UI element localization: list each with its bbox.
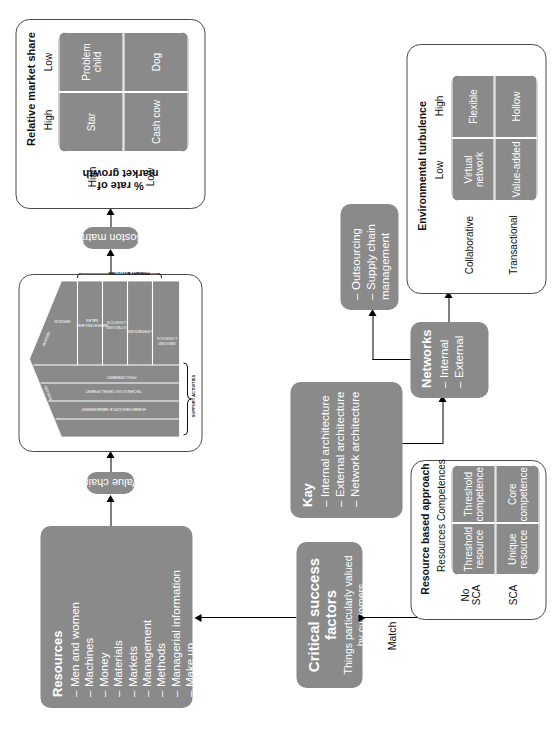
- rba-cell-core-competence[interactable]: Core competence: [495, 465, 539, 523]
- turbulence-x-tick: High: [433, 75, 444, 137]
- outsourcing-box[interactable]: –Outsourcing –Supply chain management: [340, 204, 398, 310]
- turbulence-title: Environmental turbulence: [415, 51, 427, 281]
- connector-csf-resources: [200, 617, 296, 618]
- environmental-turbulence-box[interactable]: Environmental turbulence Low High Collab…: [406, 44, 546, 294]
- primary-activity-label: MARKETING AND SALES: [76, 317, 108, 326]
- resources-item: –Materials: [110, 537, 124, 697]
- turbulence-grid[interactable]: Virtual network Flexible Value-added Hol…: [451, 75, 537, 201]
- arrowhead: [106, 208, 114, 215]
- resources-item: –Markets: [125, 537, 139, 697]
- turbulence-cell-hollow[interactable]: Hollow: [494, 75, 537, 138]
- connector-kay-networks: [402, 443, 442, 444]
- support-activity-label: FIRM INFRASTRUCTURE: [84, 438, 150, 442]
- turbulence-x-tick: Low: [433, 139, 444, 201]
- primary-activity-label: OPERATIONS: [126, 329, 152, 333]
- resources-item: –Methods: [153, 537, 167, 697]
- connector-kay-networks-h: [442, 400, 443, 444]
- boston-matrix-label: Boston matrix: [76, 232, 143, 244]
- rba-grid[interactable]: Threshold resource Threshold competence …: [451, 465, 539, 575]
- boston-cell-problem-child[interactable]: Problem child: [58, 32, 123, 92]
- outsourcing-item: –Outsourcing: [348, 214, 363, 300]
- value-chain-diagram[interactable]: FIRM INFRASTRUCTURE HUMAN RESOURCE MANAG…: [18, 274, 202, 452]
- arrowhead: [106, 451, 114, 458]
- boston-y-tick: Low: [144, 158, 155, 196]
- boston-cell-star[interactable]: Star: [58, 92, 123, 152]
- primary-activity-label: SERVICE: [52, 319, 72, 323]
- networks-title: Networks: [418, 332, 433, 388]
- boston-matrix-chart[interactable]: Relative market share High Low % rate of…: [15, 19, 205, 209]
- rba-title: Resource based approach: [418, 459, 430, 599]
- rba-row-header: SCA: [507, 577, 518, 613]
- boston-matrix-label-box[interactable]: Boston matrix: [82, 227, 138, 249]
- connector-boston-chart: [110, 213, 111, 227]
- match-label: Match: [386, 616, 397, 656]
- arrowhead: [106, 495, 114, 502]
- turbulence-row-header: Transactional: [507, 203, 518, 287]
- critical-success-factors-box[interactable]: Critical success factors Things particul…: [296, 542, 362, 688]
- outsourcing-item: –Supply chain management: [363, 214, 391, 300]
- rba-cell-unique-resource[interactable]: Unique resource: [495, 523, 539, 575]
- turbulence-cell-flexible[interactable]: Flexible: [451, 75, 494, 138]
- boston-x-tick: High: [42, 92, 53, 148]
- boston-cell-dog[interactable]: Dog: [123, 32, 188, 92]
- rba-cell-threshold-competence[interactable]: Threshold competence: [451, 465, 495, 523]
- rba-cell-threshold-resource[interactable]: Threshold resource: [451, 523, 495, 575]
- rba-col-header: Resources: [435, 521, 446, 575]
- support-activities-caption: SUPPORT ACTIVITIES: [190, 367, 195, 425]
- value-chain-shape: [19, 273, 203, 451]
- networks-box[interactable]: Networks –Internal –External: [410, 322, 488, 398]
- boston-y-tick: High: [86, 158, 97, 196]
- support-activity-label: PROCUREMENT: [93, 375, 149, 379]
- kay-item: –Internal architecture: [317, 393, 332, 507]
- connector-networks-outsourcing: [372, 359, 410, 360]
- boston-matrix-grid[interactable]: Star Problem child Cash cow Dog: [58, 32, 188, 152]
- kay-title: Kay: [299, 393, 314, 507]
- kay-item: –Network architecture: [347, 393, 362, 507]
- primary-activity-label: INBOUND LOGISTICS: [152, 335, 182, 344]
- kay-box[interactable]: Kay –Internal architecture –External arc…: [290, 382, 402, 518]
- value-chain-label-box[interactable]: Value chain: [86, 472, 134, 494]
- resources-box[interactable]: Resources –Men and women –Machines –Mone…: [40, 526, 192, 708]
- arrowhead: [194, 614, 201, 622]
- resources-item: –Money: [96, 537, 110, 697]
- resources-item: –Men and women: [67, 537, 81, 697]
- turbulence-cell-value-added[interactable]: Value-added: [494, 138, 537, 201]
- networks-item: –Internal: [436, 332, 451, 388]
- networks-item: –External: [451, 332, 466, 388]
- arrowhead: [368, 309, 376, 316]
- resources-title: Resources: [49, 537, 64, 697]
- resource-based-approach-box[interactable]: Resource based approach Resources Compet…: [410, 460, 546, 620]
- boston-x-title: Relative market share: [24, 26, 36, 152]
- diagram-canvas: Resources –Men and women –Machines –Mone…: [0, 0, 559, 730]
- boston-x-tick: Low: [42, 34, 53, 90]
- arrowhead: [358, 614, 365, 622]
- connector-networks-turbulence: [448, 296, 449, 322]
- connector-valuechain-diagram: [110, 456, 111, 472]
- support-activity-label: TECHNOLOGY DEVELOPMENT: [75, 389, 151, 393]
- resources-item: –Managerial information: [168, 537, 182, 697]
- arrowhead: [106, 249, 114, 256]
- resources-item: –Machines: [81, 537, 95, 697]
- primary-activities-caption: PRIMARY ACTIVITIES: [101, 271, 157, 276]
- boston-cell-cash-cow[interactable]: Cash cow: [123, 92, 188, 152]
- turbulence-cell-virtual-network[interactable]: Virtual network: [451, 138, 494, 201]
- rba-col-header: Competences: [435, 461, 446, 521]
- kay-item: –External architecture: [332, 393, 347, 507]
- connector-networks-outsourcing-h: [372, 314, 373, 360]
- turbulence-row-header: Collaborative: [463, 203, 474, 287]
- support-activity-label: HUMAN RESOURCE MANAGEMENT: [73, 407, 153, 411]
- connector-resources-valuechain: [110, 500, 111, 526]
- resources-item: –Management: [139, 537, 153, 697]
- csf-title: Critical success factors: [304, 552, 338, 678]
- value-chain-label: Value chain: [82, 477, 139, 489]
- rba-row-header: NoSCA: [459, 577, 481, 613]
- connector-valuechain-boston: [110, 254, 111, 274]
